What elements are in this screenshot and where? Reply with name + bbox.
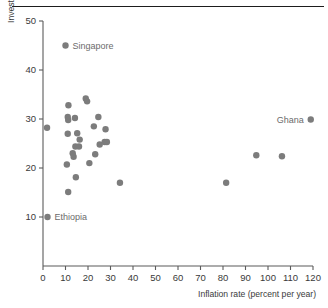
- data-point: [91, 123, 97, 129]
- data-point: [223, 180, 229, 186]
- y-tick-label: 50: [25, 15, 36, 26]
- data-point-label-ghana: Ghana: [277, 115, 304, 125]
- data-point: [86, 160, 92, 166]
- x-tick-label: 60: [173, 272, 184, 283]
- data-point: [65, 189, 71, 195]
- data-point: [64, 161, 70, 167]
- data-point-label-singapore: Singapore: [73, 41, 114, 51]
- x-tick-label: 90: [240, 272, 251, 283]
- y-axis-title: Investment rate (percentage of GDP): [6, 0, 16, 23]
- y-tick-label: 20: [25, 162, 36, 173]
- scatter-plot-figure: 10203040500102030405060708090100110120In…: [0, 0, 328, 308]
- data-point: [73, 174, 79, 180]
- data-point: [65, 131, 71, 137]
- data-point-ethiopia: [44, 214, 50, 220]
- x-axis-title: Inflation rate (percent per year): [198, 289, 316, 299]
- data-point: [70, 154, 76, 160]
- x-tick-label: 70: [195, 272, 206, 283]
- data-point: [74, 130, 80, 136]
- data-point-label-ethiopia: Ethiopia: [55, 212, 88, 222]
- data-point: [44, 125, 50, 131]
- y-tick-label: 40: [25, 64, 36, 75]
- data-point: [84, 98, 90, 104]
- x-tick-label: 110: [283, 272, 298, 283]
- x-tick-label: 20: [83, 272, 94, 283]
- data-point: [104, 139, 110, 145]
- data-point: [76, 143, 82, 149]
- data-point: [102, 126, 108, 132]
- x-tick-label: 0: [40, 272, 45, 283]
- data-point: [253, 152, 259, 158]
- x-tick-label: 120: [305, 272, 321, 283]
- data-point-ghana: [308, 116, 314, 122]
- x-tick-label: 50: [150, 272, 161, 283]
- x-tick-label: 40: [128, 272, 139, 283]
- x-tick-label: 100: [260, 272, 276, 283]
- y-tick-label: 30: [25, 113, 36, 124]
- data-point-singapore: [62, 42, 68, 48]
- scatter-plot-canvas: 10203040500102030405060708090100110120In…: [0, 0, 328, 308]
- data-point: [76, 136, 82, 142]
- data-point: [279, 153, 285, 159]
- data-point: [65, 102, 71, 108]
- data-point: [95, 114, 101, 120]
- x-tick-label: 30: [105, 272, 116, 283]
- x-tick-label: 80: [218, 272, 229, 283]
- axes-group: 10203040500102030405060708090100110120In…: [6, 0, 321, 299]
- data-point: [117, 180, 123, 186]
- data-point: [92, 151, 98, 157]
- data-points-group: SingaporeEthiopiaGhana: [44, 41, 314, 223]
- y-tick-label: 10: [25, 211, 36, 222]
- data-point: [65, 117, 71, 123]
- x-tick-label: 10: [60, 272, 71, 283]
- data-point: [72, 115, 78, 121]
